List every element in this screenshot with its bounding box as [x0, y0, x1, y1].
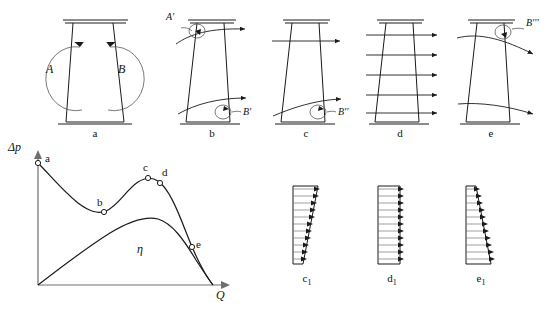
panel-e — [457, 20, 533, 124]
panel-c — [272, 20, 341, 124]
vortex-label-a-A: A — [46, 62, 53, 77]
vortex-label-b-A-prime: A' — [166, 11, 174, 22]
panel-label-d: d — [385, 127, 415, 139]
panel-label-d1-sub: 1 — [393, 278, 397, 287]
profile-e1 — [466, 186, 495, 264]
chart-point-c — [145, 175, 150, 180]
panel-label-e1: e1 — [466, 272, 496, 287]
y-axis-label: Δp — [8, 140, 21, 155]
panel-label-c1-sub: 1 — [307, 278, 311, 287]
panel-label-d1: d1 — [377, 272, 407, 287]
chart-label-d: d — [162, 166, 168, 178]
panel-a — [46, 20, 144, 124]
chart-point-a — [35, 160, 40, 165]
panel-b — [176, 20, 246, 124]
delta-p-curve — [38, 163, 213, 285]
figure-canvas: A B A' B' B'' B''' a b c d e Δp Q a b c … — [0, 0, 553, 313]
panel-label-e1-sub: 1 — [481, 278, 485, 287]
chart-point-b — [101, 209, 106, 214]
chart-label-c: c — [143, 161, 148, 173]
chart-label-e: e — [196, 238, 201, 250]
y-axis-arrow — [34, 150, 42, 159]
profile-d1 — [378, 186, 404, 264]
chart-point-d — [157, 180, 162, 185]
vortex-label-c-B-double-prime: B'' — [338, 106, 348, 117]
profile-c1 — [293, 186, 320, 264]
vortex-label-a-B: B — [118, 62, 125, 77]
panel-label-c1: c1 — [292, 272, 322, 287]
performance-chart — [34, 150, 230, 289]
chart-label-a: a — [45, 152, 50, 164]
x-axis-label: Q — [216, 288, 225, 303]
vortex-label-b-B-prime: B' — [243, 106, 251, 117]
panel-d — [366, 20, 437, 124]
panel-label-a: a — [80, 127, 110, 139]
panel-label-b: b — [197, 127, 227, 139]
chart-label-b: b — [97, 196, 103, 208]
vortex-label-e-B-triple-prime: B''' — [526, 17, 539, 28]
eta-curve — [38, 218, 213, 285]
chart-point-e — [189, 244, 194, 249]
panel-label-c: c — [291, 127, 321, 139]
panel-label-e: e — [476, 127, 506, 139]
figure-svg — [0, 0, 553, 313]
eta-curve-label: η — [137, 242, 143, 257]
